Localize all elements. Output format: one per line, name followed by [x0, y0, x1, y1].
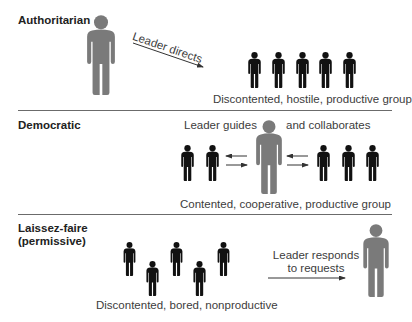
arrow-icon	[133, 43, 203, 67]
arrows-layer	[0, 0, 412, 322]
